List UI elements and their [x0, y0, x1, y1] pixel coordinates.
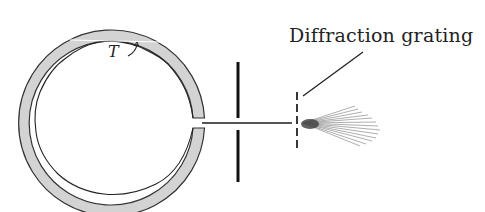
label-leader-line	[303, 52, 363, 96]
grating-label: Diffraction grating	[289, 24, 473, 46]
blackbody-diffraction-diagram: Diffraction grating T	[0, 0, 485, 212]
fan-origin	[301, 119, 319, 129]
temperature-label: T	[108, 42, 119, 61]
